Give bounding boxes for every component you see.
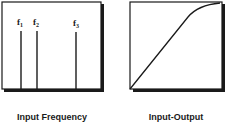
caption-input-output: Input-Output [124,112,228,122]
input-output-diagram [124,0,247,100]
caption-input-frequency: Input Frequency [0,112,104,122]
input-frequency-diagram: f1 f2 f3 [0,0,124,100]
frequency-box [2,2,101,89]
transfer-box [130,2,222,89]
